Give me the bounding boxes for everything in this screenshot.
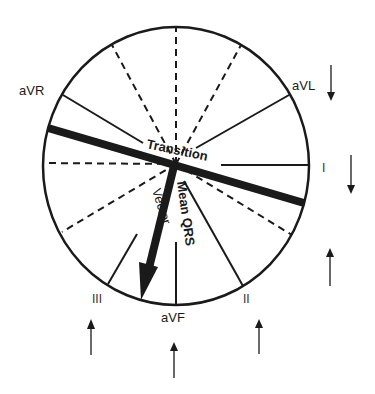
arrow-up-icon-aVF (170, 342, 178, 378)
label-aVL: aVL (292, 78, 315, 93)
mean-qrs-vector-arrow (139, 166, 174, 300)
label-mean-qrs: Mean QRS (174, 180, 198, 247)
arrow-up-icon-right (326, 248, 334, 286)
arrow-up-icon-II (255, 319, 263, 354)
label-I: I (322, 161, 325, 175)
label-II: II (243, 292, 250, 306)
arrow-up-icon-III (87, 319, 95, 355)
arrow-down-icon-aVL (327, 65, 335, 101)
label-aVR: aVR (19, 83, 44, 98)
label-III: III (92, 292, 102, 306)
label-aVF: aVF (161, 310, 185, 325)
lead-III-line (108, 234, 137, 284)
lead-aVL-line (196, 95, 289, 148)
hexaxial-diagram: aVR aVL I II III aVF Transition Mean QRS… (0, 0, 375, 394)
arrow-down-icon-I (347, 155, 355, 194)
deflection-arrows (87, 65, 355, 378)
